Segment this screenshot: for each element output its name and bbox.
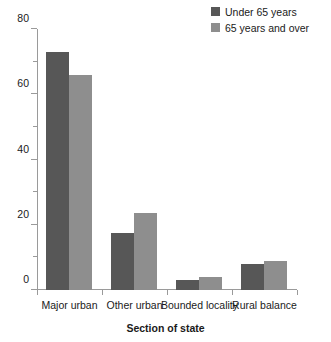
x-axis-category-label: Rural balance <box>224 299 305 312</box>
bar <box>46 52 69 290</box>
y-axis-tick-label: 40 <box>17 143 29 154</box>
bar-group <box>37 29 102 290</box>
x-axis-separator-tick <box>297 290 298 295</box>
bar <box>199 277 222 290</box>
plot-area: 020406080 <box>37 29 297 290</box>
x-axis-title: Section of state <box>0 322 331 334</box>
x-axis-separator-tick <box>167 290 168 295</box>
bar <box>264 261 287 290</box>
bar-group <box>167 29 232 290</box>
x-axis-separator-tick <box>102 290 103 295</box>
bar <box>111 233 134 290</box>
bar <box>134 213 157 290</box>
x-axis-separator-tick <box>232 290 233 295</box>
bar <box>176 280 199 290</box>
x-axis-separator-tick <box>37 290 38 295</box>
bar-group <box>232 29 297 290</box>
bar-group <box>102 29 167 290</box>
legend-swatch-icon <box>211 7 220 16</box>
y-axis-tick-label: 60 <box>17 78 29 89</box>
y-axis-tick-label: 80 <box>17 13 29 24</box>
y-axis-tick-label: 20 <box>17 208 29 219</box>
legend-label: Under 65 years <box>225 6 297 18</box>
bar <box>241 264 264 290</box>
legend-item: Under 65 years <box>211 4 331 19</box>
bar <box>69 75 92 290</box>
bar-chart: Under 65 years 65 years and over 0204060… <box>0 0 331 342</box>
y-axis-tick-label: 0 <box>23 274 29 285</box>
